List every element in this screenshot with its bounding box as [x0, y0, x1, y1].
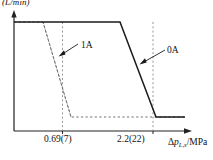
curve-label-0a: 0A	[167, 45, 179, 55]
curve-0a	[14, 22, 185, 117]
leader-0a	[140, 50, 166, 65]
series-0a-solid	[14, 22, 185, 117]
axis-lines	[11, 10, 192, 134]
leader-0a-arrowhead	[140, 58, 147, 64]
y-axis-label: (L/min)	[2, 0, 30, 7]
curve-label-1a: 1A	[81, 40, 93, 50]
leader-1a	[59, 44, 79, 57]
x-axis-label: ΔpL,s/MPa	[168, 137, 207, 148]
y-axis-arrowhead	[11, 10, 16, 18]
series-1a-dashed	[14, 22, 185, 117]
flow-pressure-chart: (L/min) 0.69(7) 2.2(22) ΔpL,s/MPa 1A 0A	[0, 0, 213, 160]
x-tick-label-069: 0.69(7)	[44, 134, 72, 144]
curve-1a	[14, 22, 185, 117]
x-axis-label-unit: /MPa	[187, 137, 208, 147]
chart-svg	[0, 0, 213, 160]
reference-lines	[63, 22, 154, 131]
x-axis-label-subscript: L,s	[179, 141, 187, 148]
x-tick-label-22: 2.2(22)	[117, 134, 145, 144]
leader-1a-arrowhead	[59, 50, 66, 56]
x-axis-arrowhead	[184, 128, 192, 134]
